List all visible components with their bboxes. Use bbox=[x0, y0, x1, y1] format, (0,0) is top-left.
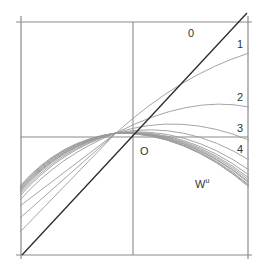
phase-diagram: 0 1 2 3 4 O Wu bbox=[0, 0, 266, 270]
label-origin: O bbox=[140, 145, 149, 157]
label-curve-4: 4 bbox=[237, 143, 243, 155]
label-curve-2: 2 bbox=[237, 91, 243, 103]
label-curve-0: 0 bbox=[188, 27, 194, 39]
curve-family bbox=[20, 53, 249, 232]
curve-0-line bbox=[22, 13, 247, 255]
label-unstable-manifold: Wu bbox=[195, 177, 209, 190]
label-curve-1: 1 bbox=[237, 38, 243, 50]
label-curve-3: 3 bbox=[237, 122, 243, 134]
